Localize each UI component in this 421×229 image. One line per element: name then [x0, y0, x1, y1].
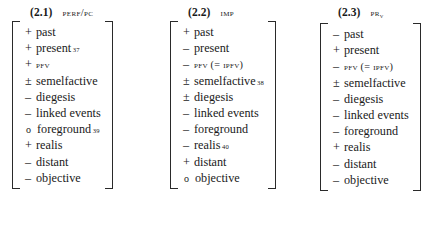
feature-name: foreground	[194, 121, 248, 137]
feature-name: PFV (= IPFV)	[344, 58, 393, 75]
right-bracket	[268, 21, 276, 189]
feature-sign: –	[333, 107, 344, 123]
feature-row: –present	[183, 40, 264, 56]
feature-name-text: PFV (= IPFV)	[194, 59, 243, 70]
matrix-block-2.2: (2.2)imp+past–present–PFV (= IPFV)±semel…	[152, 6, 302, 189]
feature-row: –distant	[25, 154, 101, 170]
feature-name: objective	[195, 170, 240, 186]
feature-sign: –	[333, 156, 344, 172]
feature-row: ±semelfactive	[333, 75, 409, 91]
matrix-header: (2.1)perf/pc	[12, 6, 93, 18]
right-bracket	[413, 23, 421, 191]
feature-name: linked events	[194, 105, 259, 121]
feature-row: –realis40	[183, 137, 264, 153]
feature-row: –linked events	[183, 105, 264, 121]
left-bracket	[320, 23, 328, 191]
feature-sign: o	[25, 122, 37, 138]
feature-row: ±semelfactive38	[183, 73, 264, 89]
feature-row: –diegesis	[25, 89, 101, 105]
feature-sign: –	[183, 40, 194, 56]
feature-name: distant	[344, 156, 377, 172]
matrix-label-main: perf	[63, 7, 81, 18]
feature-name: diegesis	[194, 89, 233, 105]
matrix-label: perf/pc	[63, 7, 94, 18]
feature-name: realis	[36, 137, 62, 153]
feature-row: +past	[25, 24, 101, 40]
matrix-label-main: pr	[371, 7, 380, 18]
feature-name: linked events	[36, 105, 101, 121]
feature-sign: +	[333, 42, 344, 58]
matrix-number: (2.3)	[338, 6, 361, 18]
matrix-number: (2.2)	[188, 6, 211, 18]
feature-sign: +	[25, 40, 36, 56]
feature-row: –objective	[333, 172, 409, 188]
feature-name: past	[36, 24, 56, 40]
matrix-number: (2.1)	[30, 6, 53, 18]
feature-matrix: +past+present37+PFV±semelfactive–diegesi…	[12, 21, 113, 189]
feature-sign: –	[183, 56, 194, 72]
feature-name: present	[194, 40, 229, 56]
feature-row: –foreground	[183, 121, 264, 137]
feature-row: –diegesis	[333, 91, 409, 107]
feature-row: +PFV	[25, 56, 101, 72]
feature-list: –past+present–PFV (= IPFV)±semelfactive–…	[333, 26, 409, 188]
feature-row: ±diegesis	[183, 89, 264, 105]
left-bracket	[12, 21, 20, 189]
matrix-header: (2.3)prv	[320, 6, 383, 20]
feature-name: past	[194, 24, 214, 40]
feature-name: diegesis	[344, 91, 383, 107]
feature-sign: +	[333, 139, 344, 155]
feature-sign: –	[25, 89, 36, 105]
feature-name: semelfactive	[36, 73, 98, 89]
feature-name: foreground	[37, 121, 91, 137]
feature-name: PFV	[36, 56, 50, 73]
feature-row: +present	[333, 42, 409, 58]
matrix-label: imp	[221, 7, 235, 18]
feature-name: distant	[36, 154, 69, 170]
feature-row: –linked events	[25, 105, 101, 121]
feature-row: –PFV (= IPFV)	[333, 58, 409, 74]
feature-sign: ±	[25, 73, 36, 89]
feature-sign: –	[25, 154, 36, 170]
matrix-block-2.1: (2.1)perf/pc+past+present37+PFV±semelfac…	[0, 6, 152, 189]
feature-name: diegesis	[36, 89, 75, 105]
matrix-label: prv	[371, 7, 384, 20]
feature-name: realis	[344, 139, 370, 155]
left-bracket	[170, 21, 178, 189]
feature-sign: –	[333, 123, 344, 139]
feature-sign: –	[25, 105, 36, 121]
footnote-marker: 37	[73, 42, 80, 58]
feature-row: –distant	[333, 156, 409, 172]
feature-name: foreground	[344, 123, 398, 139]
feature-name-text: PFV (= IPFV)	[344, 61, 393, 72]
feature-sign: +	[183, 154, 194, 170]
feature-list: +past–present–PFV (= IPFV)±semelfactive3…	[183, 24, 264, 186]
feature-sign: +	[25, 56, 36, 72]
feature-sign: –	[183, 105, 194, 121]
feature-sign: –	[183, 121, 194, 137]
feature-sign: +	[183, 24, 194, 40]
feature-matrix: –past+present–PFV (= IPFV)±semelfactive–…	[320, 23, 421, 191]
matrix-label-main: imp	[221, 7, 235, 18]
feature-sign: ±	[333, 75, 344, 91]
matrix-block-2.3: (2.3)prv–past+present–PFV (= IPFV)±semel…	[302, 6, 416, 191]
feature-row: –objective	[25, 170, 101, 186]
right-bracket	[105, 21, 113, 189]
feature-sign: –	[333, 172, 344, 188]
feature-name: linked events	[344, 107, 409, 123]
feature-row: +present37	[25, 40, 101, 56]
feature-list: +past+present37+PFV±semelfactive–diegesi…	[25, 24, 101, 186]
feature-name: semelfactive	[194, 73, 256, 89]
feature-row: –past	[333, 26, 409, 42]
feature-row: +past	[183, 24, 264, 40]
feature-row: oobjective	[183, 170, 264, 186]
feature-sign: –	[333, 91, 344, 107]
feature-sign: +	[25, 24, 36, 40]
footnote-marker: 38	[257, 75, 264, 91]
feature-name: present	[36, 40, 71, 56]
feature-sign: –	[333, 58, 344, 74]
feature-name: objective	[36, 170, 81, 186]
feature-row: +distant	[183, 154, 264, 170]
feature-name: objective	[344, 172, 389, 188]
